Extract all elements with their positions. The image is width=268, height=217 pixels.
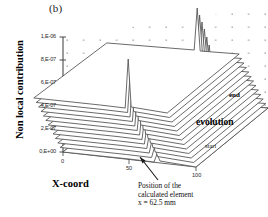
y-tick-label-1: 8,E-07 bbox=[22, 56, 56, 62]
z-axis-title: evolution bbox=[196, 117, 233, 127]
panel-label: (b) bbox=[49, 2, 62, 14]
peak-annotation: Position of the calculated element x = 6… bbox=[138, 182, 193, 208]
x-axis-title: X-coord bbox=[52, 178, 89, 189]
x-tick-label-1: 50 bbox=[126, 165, 132, 171]
y-tick-label-4: 2,E-07 bbox=[22, 125, 56, 131]
figure-panel-b: (b) Non local contribution 1,E-06 8,E-07… bbox=[0, 0, 268, 217]
y-tick-label-5: 0,E+00 bbox=[22, 148, 56, 154]
y-axis-title: Non local contribution bbox=[14, 30, 25, 150]
annotation-line-3: x = 62.5 mm bbox=[138, 199, 193, 208]
y-tick-label-3: 4,E-07 bbox=[22, 102, 56, 108]
y-tick-label-2: 6,E-07 bbox=[22, 79, 56, 85]
z-axis-start-label: start bbox=[205, 142, 216, 149]
z-axis-end-label: end bbox=[229, 91, 240, 99]
x-tick-label-0: 0 bbox=[61, 158, 64, 164]
x-tick-label-2: 100 bbox=[192, 172, 201, 178]
y-tick-label-0: 1,E-06 bbox=[22, 33, 56, 39]
